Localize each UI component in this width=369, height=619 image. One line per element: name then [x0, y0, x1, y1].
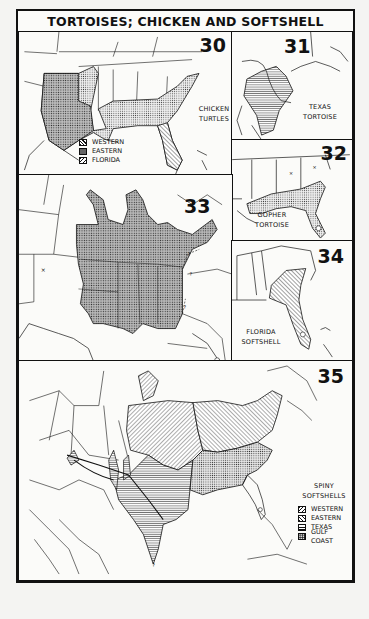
diagonal-down-swatch-icon — [298, 515, 306, 522]
legend-item-western: WESTERN — [298, 505, 352, 514]
svg-text:×: × — [289, 170, 293, 176]
legend-item-eastern: EASTERN — [298, 514, 352, 523]
map-number: 30 — [200, 36, 226, 55]
map-number: 32 — [321, 144, 347, 163]
map-number: 34 — [318, 247, 344, 266]
dots-swatch-icon — [79, 148, 87, 155]
legend-item-western: WESTERN — [79, 138, 124, 147]
map-35-graphic: ? — [19, 361, 352, 580]
crosshatch-swatch-icon — [79, 139, 87, 146]
map-30-legend: WESTERN EASTERN FLORIDA — [79, 138, 124, 165]
diagonal-swatch-icon — [79, 157, 87, 164]
svg-text:?: ? — [183, 304, 186, 310]
map-caption: CHICKEN TURTLES — [194, 104, 233, 124]
map-caption: SPINY SOFTSHELLS — [299, 481, 349, 501]
svg-text:?: ? — [187, 251, 190, 257]
map-number: 31 — [284, 37, 310, 56]
svg-text:×: × — [41, 266, 46, 273]
svg-text:?: ? — [189, 271, 192, 277]
map-35-spiny-softshells: ? 35 SPINY SOFTSHELLS WESTERN EASTERN TE… — [18, 360, 353, 581]
map-34-florida-softshell: 34 FLORIDA SOFTSHELL — [231, 240, 353, 362]
map-31-texas-tortoise: 31 TEXAS TORTOISE — [231, 31, 353, 141]
map-32-gopher-tortoise: × × 32 GOPHER TORTOISE — [231, 139, 353, 242]
map-33-smooth-softshell: × ? ? ? 33 SMOOTH SOFTSHELL — [18, 174, 233, 389]
map-caption: TEXAS TORTOISE — [298, 102, 342, 122]
page-title: TORTOISES; CHICKEN AND SOFTSHELL TURTLES — [18, 11, 353, 33]
map-30-chicken-turtles: 30 CHICKEN TURTLES WESTERN EASTERN FLORI… — [18, 31, 233, 176]
map-caption: FLORIDA SOFTSHELL — [238, 327, 284, 347]
map-35-legend: WESTERN EASTERN TEXAS GULF COAST — [298, 505, 352, 541]
legend-item-eastern: EASTERN — [79, 147, 124, 156]
svg-text:?: ? — [152, 562, 155, 568]
field-guide-page: TORTOISES; CHICKEN AND SOFTSHELL TURTLES… — [16, 9, 355, 583]
diagonal-up-swatch-icon — [298, 506, 306, 513]
svg-text:×: × — [313, 164, 317, 170]
horizontal-lines-swatch-icon — [298, 524, 306, 531]
dots-swatch-icon — [298, 533, 306, 540]
map-number: 35 — [318, 367, 344, 386]
legend-item-florida: FLORIDA — [79, 156, 124, 165]
map-caption: GOPHER TORTOISE — [250, 210, 294, 230]
map-number: 33 — [184, 197, 210, 216]
legend-item-gulf-coast: GULF COAST — [298, 532, 352, 541]
